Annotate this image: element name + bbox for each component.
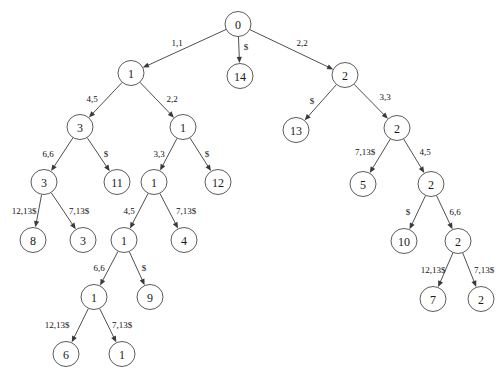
tree-node[interactable]: 13	[283, 118, 309, 143]
edge-label: $	[310, 96, 315, 106]
node-label: 3	[41, 176, 47, 190]
edge-label: $	[205, 149, 210, 159]
edge-label: 7,13$	[69, 206, 90, 216]
edge-label: 6,6	[42, 149, 54, 159]
edge-label: $	[406, 207, 411, 217]
edge-label: 12,13$	[12, 206, 37, 216]
tree-node[interactable]: 5	[350, 172, 376, 197]
edge-label: 12,13$	[45, 320, 70, 330]
node-label: 14	[234, 70, 246, 84]
tree-node[interactable]: 7	[420, 287, 446, 312]
edge-label: 7,13$	[112, 320, 133, 330]
edge-arrowhead	[419, 166, 424, 173]
tree-node[interactable]: 2	[332, 63, 358, 88]
tree-node[interactable]: 1	[170, 115, 196, 140]
tree-node[interactable]: 14	[227, 64, 253, 89]
node-label: 2	[428, 178, 434, 192]
node-label: 12	[212, 176, 224, 190]
edge-label: 4,5	[86, 94, 98, 104]
tree-node[interactable]: 2	[468, 287, 494, 312]
tree-node[interactable]: 10	[391, 229, 417, 254]
node-label: 8	[30, 234, 36, 248]
edge-label: 7,13$	[355, 147, 376, 157]
tree-graphic: 0141231132311112528314102197261 1,1$2,24…	[0, 0, 502, 380]
node-label: 2	[342, 69, 348, 83]
edge-arrowhead	[472, 280, 477, 287]
node-label: 13	[290, 124, 302, 138]
node-label: 10	[398, 235, 410, 249]
tree-node[interactable]: 1	[109, 342, 135, 367]
edge-label: 3,3	[379, 92, 391, 102]
tree-node[interactable]: 2	[445, 229, 471, 254]
edge-label: 12,13$	[421, 265, 446, 275]
node-label: 3	[80, 234, 86, 248]
tree-edge	[53, 138, 73, 168]
edge-label: 2,2	[166, 94, 177, 104]
node-label: 5	[360, 178, 366, 192]
node-label: 4	[181, 234, 187, 248]
tree-node[interactable]: 3	[70, 228, 96, 253]
node-label: 2	[478, 293, 484, 307]
edge-label: 3,3	[153, 149, 165, 159]
tree-edge	[250, 30, 330, 68]
node-label: 2	[394, 122, 400, 136]
tree-node[interactable]: 6	[53, 342, 79, 367]
tree-node[interactable]: 2	[418, 172, 444, 197]
edge-label: 6,6	[93, 263, 105, 273]
tree-node[interactable]: 11	[104, 170, 130, 195]
suffix-tree-diagram: 0141231132311112528314102197261 1,1$2,24…	[0, 0, 502, 380]
node-label: 2	[455, 235, 461, 249]
tree-edge	[36, 195, 42, 224]
tree-node[interactable]: 12	[205, 170, 231, 195]
node-label: 1	[180, 121, 186, 135]
node-label: 6	[63, 348, 69, 362]
edge-label: 7,13$	[474, 265, 495, 275]
tree-node[interactable]: 3	[31, 170, 57, 195]
node-label: 7	[430, 293, 436, 307]
tree-node[interactable]: 1	[141, 170, 167, 195]
edge-arrowhead	[205, 164, 211, 171]
tree-edge	[411, 196, 425, 226]
node-label: 0	[235, 18, 241, 32]
edge-label: $	[142, 263, 147, 273]
tree-node[interactable]: 1	[118, 61, 144, 86]
node-label: 1	[151, 176, 157, 190]
nodes-layer: 0141231132311112528314102197261	[20, 12, 494, 367]
edge-label: 6,6	[449, 207, 461, 217]
edge-label: 7,13$	[176, 206, 197, 216]
tree-node[interactable]: 1	[81, 285, 107, 310]
node-label: 3	[77, 121, 83, 135]
edge-arrowhead	[70, 223, 76, 230]
node-label: 1	[119, 348, 125, 362]
tree-edge	[73, 309, 88, 340]
tree-node[interactable]: 1	[111, 228, 137, 253]
tree-node[interactable]: 2	[384, 116, 410, 141]
tree-edge	[146, 29, 226, 66]
tree-node[interactable]: 9	[137, 285, 163, 310]
tree-node[interactable]: 8	[20, 228, 46, 253]
node-label: 1	[128, 67, 134, 81]
edge-label: $	[104, 149, 109, 159]
tree-edge	[238, 37, 239, 60]
tree-node[interactable]: 0	[225, 12, 251, 37]
node-label: 11	[111, 176, 123, 190]
edge-arrowhead	[370, 166, 375, 173]
edge-arrowhead	[34, 221, 39, 228]
edge-arrowhead	[104, 165, 110, 172]
edge-arrowhead	[237, 57, 242, 63]
edge-label: 1,1	[171, 38, 182, 48]
tree-node[interactable]: 3	[67, 115, 93, 140]
edge-label: $	[244, 42, 249, 52]
edge-label: 2,2	[296, 38, 307, 48]
tree-node[interactable]: 4	[171, 228, 197, 253]
edge-label: 4,5	[419, 147, 431, 157]
node-label: 1	[91, 291, 97, 305]
node-label: 1	[121, 234, 127, 248]
edge-label: 4,5	[123, 206, 135, 216]
node-label: 9	[147, 291, 153, 305]
tree-edge	[160, 194, 176, 226]
edge-arrowhead	[51, 165, 57, 172]
